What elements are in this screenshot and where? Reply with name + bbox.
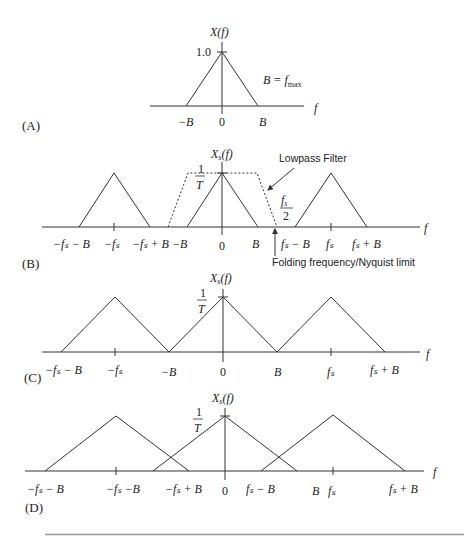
panel-c-peak-den: T <box>198 302 206 316</box>
panel-b: Xs(f) 1 T Lowpass Filter fs 2 f −fₛ − B … <box>22 147 429 271</box>
panel-c-tick-label-0: −fₛ − B <box>45 363 83 377</box>
panel-b-nyquist-label: Folding frequency/Nyquist limit <box>272 256 415 268</box>
panel-b-tick-label-6: fₛ − B <box>281 237 310 251</box>
panel-d-tick-label-5: B <box>312 484 320 498</box>
panel-d-tick-label-4: fₛ − B <box>246 482 275 496</box>
panel-a-x-label: f <box>314 101 319 115</box>
panel-d-tick-label-7: fₛ + B <box>389 482 418 496</box>
panel-c-y-label: Xs(f) <box>209 271 232 286</box>
panel-b-tick-label-5: B <box>252 237 260 251</box>
panel-d-tick-label-2: −fₛ + B <box>165 482 203 496</box>
panel-c-tick-label-6: fₛ + B <box>370 363 399 377</box>
panel-d-right-image <box>261 415 405 471</box>
panel-c-tick-label-3: 0 <box>220 365 226 379</box>
panel-a: X(f) 1.0 B = fmax f −B 0 B (A) <box>22 25 319 133</box>
panel-b-x-label: f <box>424 221 429 235</box>
panel-b-tick-label-4: 0 <box>219 239 225 253</box>
panel-b-tick-label-1: −fₛ <box>104 237 120 251</box>
panel-b-peak-den: T <box>196 178 204 192</box>
panel-a-tick-zero: 0 <box>219 115 225 129</box>
panel-d-tick-label-0: −fₛ − B <box>27 482 65 496</box>
panel-a-tick-b: B <box>259 115 267 129</box>
panel-b-label: (B) <box>22 256 39 271</box>
panel-c-label: (C) <box>24 370 41 385</box>
panel-b-tick-label-7: fₛ <box>326 237 334 251</box>
panel-b-filter-label: Lowpass Filter <box>279 152 347 164</box>
panel-d-y-label: Xs(f) <box>211 391 234 406</box>
panel-a-peak-label: 1.0 <box>196 45 211 59</box>
sampling-spectrum-diagram: X(f) 1.0 B = fmax f −B 0 B (A) Xs(f) 1 T… <box>0 0 464 536</box>
panel-b-half-fs-num: fs <box>281 193 287 208</box>
panel-b-peak-num: 1 <box>198 162 204 176</box>
panel-a-tick-neg-b: −B <box>178 115 194 129</box>
panel-d-tick-label-6: fₛ <box>328 484 336 498</box>
panel-d-tick-label-1: −fₛ −B <box>106 482 141 496</box>
panel-b-y-label: Xs(f) <box>210 147 233 162</box>
panel-d-peak-den: T <box>194 421 202 435</box>
panel-b-tick-label-3: −B <box>172 237 188 251</box>
panel-c: Xs(f) 1 T f −fₛ − B −fₛ −B 0 B fₛ fₛ + B… <box>24 271 431 385</box>
panel-a-y-label: X(f) <box>209 25 229 39</box>
panel-c-tick-label-4: B <box>274 365 282 379</box>
panel-b-left-image <box>79 173 150 227</box>
panel-b-tick-label-8: fₛ + B <box>352 237 381 251</box>
panel-c-x-label: f <box>426 347 431 361</box>
panel-c-tick-label-5: fₛ <box>327 365 335 379</box>
panel-b-half-fs-den: 2 <box>283 209 289 223</box>
panel-d: Xs(f) 1 T f −fₛ − B −fₛ −B −fₛ + B 0 fₛ … <box>25 391 438 515</box>
panel-c-tick-label-2: −B <box>161 365 177 379</box>
panel-d-left-image <box>45 416 189 471</box>
panel-b-tick-label-0: −fₛ − B <box>53 237 91 251</box>
panel-a-annotation: B = fmax <box>263 73 302 89</box>
panel-d-x-label: f <box>433 465 438 479</box>
panel-d-label: (D) <box>25 500 43 515</box>
panel-c-tick-label-1: −fₛ <box>107 363 123 377</box>
panel-d-peak-num: 1 <box>196 405 202 419</box>
panel-d-tick-label-3: 0 <box>222 484 228 498</box>
panel-a-label: (A) <box>22 118 40 133</box>
panel-b-right-image <box>295 173 367 227</box>
panel-c-peak-num: 1 <box>200 286 206 300</box>
panel-b-tick-label-2: −fₛ + B <box>132 237 170 251</box>
panel-b-filter-arrow <box>268 168 294 190</box>
